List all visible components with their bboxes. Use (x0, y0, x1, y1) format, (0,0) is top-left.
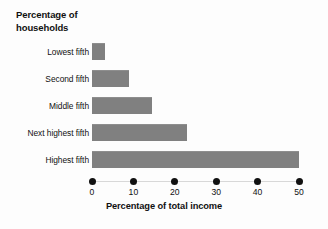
bar-row: Second fifth (0, 70, 328, 87)
category-label: Second fifth (45, 74, 89, 84)
x-axis-line (92, 181, 299, 182)
category-label: Middle fifth (49, 101, 89, 111)
x-axis-title: Percentage of total income (0, 201, 328, 211)
bar-row: Middle fifth (0, 97, 328, 114)
x-tick-label: 10 (129, 187, 139, 197)
bar-row: Highest fifth (0, 151, 328, 168)
bar (92, 151, 299, 168)
bar-row: Lowest fifth (0, 43, 328, 60)
x-tick-label: 30 (211, 187, 221, 197)
bar (92, 97, 152, 114)
category-label: Highest fifth (45, 155, 89, 165)
chart-title: Percentage of households (16, 9, 78, 34)
x-tick-label: 50 (294, 187, 304, 197)
x-tick-label: 40 (253, 187, 263, 197)
x-tick-label: 0 (90, 187, 95, 197)
x-tick-dot (171, 178, 178, 185)
x-tick-label: 20 (170, 187, 180, 197)
category-label: Lowest fifth (47, 47, 89, 57)
bar-chart: Percentage of households Lowest fifthSec… (0, 0, 328, 229)
bar (92, 70, 129, 87)
x-tick-dot (254, 178, 261, 185)
x-tick-dot (213, 178, 220, 185)
bar (92, 43, 105, 60)
x-tick-dot (296, 178, 303, 185)
category-label: Next highest fifth (28, 128, 89, 138)
bar (92, 124, 187, 141)
x-tick-dot (130, 178, 137, 185)
plot-area: Lowest fifthSecond fifthMiddle fifthNext… (0, 41, 328, 181)
bar-row: Next highest fifth (0, 124, 328, 141)
x-tick-dot (89, 178, 96, 185)
